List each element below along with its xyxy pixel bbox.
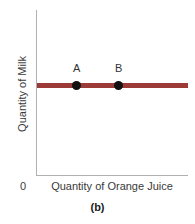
data-point-a [72, 81, 81, 90]
figure-caption: (b) [0, 201, 195, 213]
data-point-a-label: A [73, 63, 80, 74]
origin-label: 0 [20, 180, 26, 192]
data-point-b [114, 81, 123, 90]
y-axis-line [36, 10, 37, 176]
figure-panel-b: A B Quantity of Milk Quantity of Orange … [0, 0, 195, 224]
data-point-b-label: B [115, 63, 122, 74]
x-axis-title: Quantity of Orange Juice [36, 180, 188, 192]
y-axis-title: Quantity of Milk [16, 34, 28, 154]
budget-line [37, 83, 188, 88]
x-axis-line [36, 175, 188, 176]
